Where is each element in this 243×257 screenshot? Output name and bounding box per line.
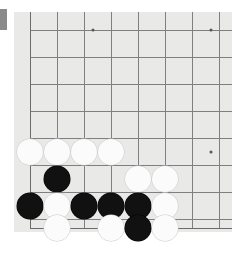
white-stone[interactable] bbox=[152, 166, 178, 192]
hoshi-upper-right-icon bbox=[210, 29, 213, 32]
white-stone[interactable] bbox=[98, 215, 124, 241]
white-stone[interactable] bbox=[125, 166, 151, 192]
grid-line-horizontal bbox=[30, 30, 232, 31]
black-stone[interactable] bbox=[71, 193, 97, 219]
black-stone[interactable] bbox=[17, 193, 43, 219]
page-margin-marker bbox=[0, 9, 7, 30]
white-stone[interactable] bbox=[152, 215, 178, 241]
hoshi-upper-left-icon bbox=[92, 29, 95, 32]
white-stone[interactable] bbox=[44, 139, 70, 165]
grid-line-horizontal bbox=[30, 84, 232, 85]
white-stone[interactable] bbox=[98, 139, 124, 165]
white-stone[interactable] bbox=[17, 139, 43, 165]
hoshi-lower-right-icon bbox=[210, 151, 213, 154]
go-board[interactable] bbox=[14, 12, 232, 232]
black-stone[interactable] bbox=[125, 215, 151, 241]
grid-line-horizontal bbox=[30, 111, 232, 112]
white-stone[interactable] bbox=[44, 215, 70, 241]
grid-line-horizontal bbox=[30, 57, 232, 58]
black-stone[interactable] bbox=[44, 166, 70, 192]
grid-line-vertical bbox=[219, 12, 220, 228]
go-diagram-screenshot bbox=[0, 0, 243, 257]
grid-line-vertical bbox=[192, 12, 193, 228]
white-stone[interactable] bbox=[71, 139, 97, 165]
